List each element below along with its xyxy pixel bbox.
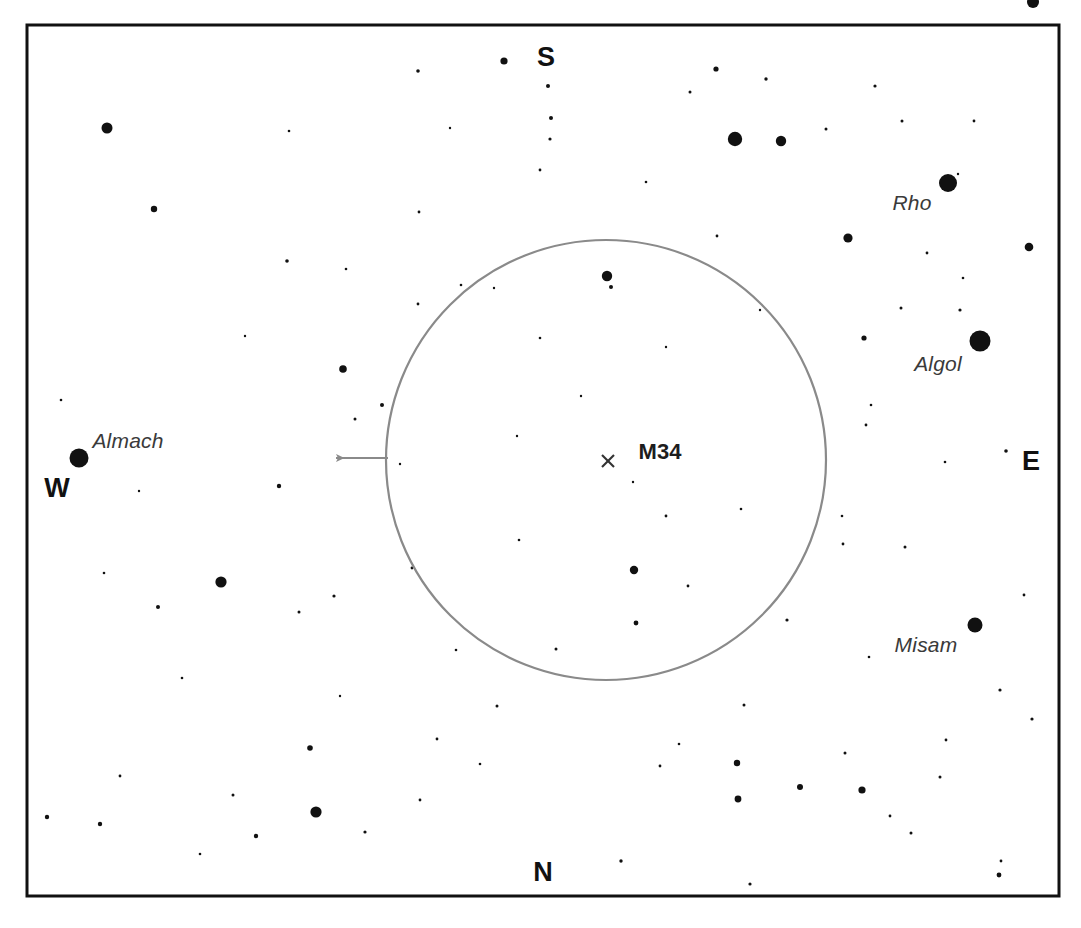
star-dot [493,287,495,289]
star-dot [713,66,718,71]
star-dot [735,796,742,803]
star-dot [138,490,140,492]
star-dot [181,677,184,680]
star-dot [60,399,63,402]
star-dot [904,546,907,549]
star-dot [436,738,439,741]
star-dot [399,463,401,465]
star-dot [678,743,681,746]
star-dot [119,775,122,778]
star-dot [199,853,202,856]
star-dot [285,259,289,263]
star-dot [743,704,746,707]
star-dot [634,621,639,626]
star-dot [417,303,420,306]
star-dot [460,284,463,287]
star-dot [973,120,976,123]
star-dot [103,572,106,575]
star-dot [332,594,335,597]
star-dot [632,481,634,483]
star-dot [997,873,1002,878]
star-dot [734,760,740,766]
star-dot [70,449,89,468]
star-dot [496,705,499,708]
star-dot [619,859,622,862]
star-dot [307,745,313,751]
star-dot [539,337,542,340]
star-dot [1000,860,1003,863]
star-dot [825,128,828,131]
star-dot [645,181,648,184]
star-dot [998,688,1001,691]
star-dot [748,882,751,885]
star-dot [858,786,865,793]
star-dot [776,136,786,146]
star-dot [716,235,719,238]
star-dot [354,418,357,421]
star-dot [797,784,803,790]
star-dot [609,285,613,289]
star-dot [870,404,873,407]
star-dot [555,648,558,651]
star-dot [102,123,113,134]
star-dot [455,649,458,652]
star-dot [339,695,341,697]
star-dot [944,461,947,464]
star-dot [785,618,788,621]
star-dot [843,233,852,242]
star-dot [518,539,521,542]
star-dot [844,752,847,755]
star-dot [339,365,347,373]
star-dot [689,91,692,94]
star-dot [232,794,235,797]
star-dot [310,806,321,817]
star-dot [1023,594,1026,597]
star-dot [1030,717,1033,720]
star-dot [548,137,551,140]
star-dot [759,309,761,311]
star-dot [215,576,226,587]
star-dot [659,765,662,768]
star-dot [277,484,281,488]
star-dot [345,268,348,271]
star-dot [580,395,582,397]
star-dot [45,815,49,819]
star-dot [98,822,102,826]
star-dot [939,174,957,192]
star-dot [740,508,743,511]
star-dot [926,252,929,255]
star-dot [1004,449,1008,453]
star-dot [549,116,553,120]
star-dot [957,173,959,175]
star-dot [630,566,638,574]
star-dot [764,77,767,80]
star-dot [419,799,422,802]
star-dot [865,424,868,427]
star-dot [449,127,451,129]
star-dot [861,335,866,340]
star-dot [539,169,542,172]
star-dot [728,132,742,146]
star-dot [288,130,291,133]
star-dot [363,830,366,833]
star-dot [479,763,482,766]
star-dot [665,515,668,518]
star-dot [516,435,518,437]
star-dot [500,57,507,64]
chart-background [0,0,1081,928]
star-dot [968,618,983,633]
star-dot [910,832,913,835]
star-dot [687,585,690,588]
star-dot [901,120,904,123]
star-dot [868,656,871,659]
star-dot [298,611,301,614]
star-dot [889,815,892,818]
star-chart: M34 Almach Rho Algol Misam S N E W [0,0,1081,928]
star-dot [546,84,550,88]
star-dot [962,277,965,280]
star-dot [970,331,991,352]
star-dot [842,543,845,546]
star-dot [873,84,876,87]
star-dot [254,834,258,838]
star-dot [151,206,157,212]
